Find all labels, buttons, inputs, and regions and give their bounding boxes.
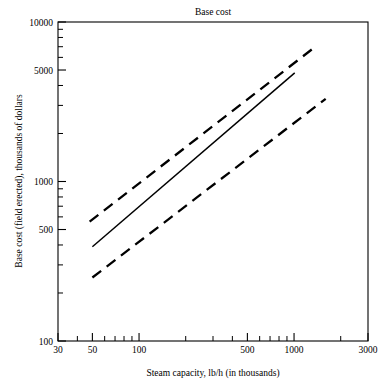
x-tick-label-3000: 3000	[359, 345, 378, 355]
x-tick-label-1000: 1000	[285, 345, 304, 355]
x-tick-label-50: 50	[88, 345, 98, 355]
x-axis-tick-labels: 305010050010003000	[53, 345, 378, 355]
y-tick-label-1000: 1000	[34, 177, 53, 187]
plot-frame	[58, 22, 368, 341]
y-tick-label-5000: 5000	[34, 66, 53, 76]
base-cost-log-log-chart: Base cost 305010050010003000 10050010005…	[0, 0, 392, 387]
y-axis-title: Base cost (field erected), thousands of …	[14, 94, 25, 268]
data-series-group	[90, 49, 326, 278]
x-tick-label-500: 500	[240, 345, 255, 355]
y-tick-label-500: 500	[39, 225, 54, 235]
chart-title: Base cost	[195, 7, 232, 17]
series-base-cost	[92, 73, 294, 247]
y-axis-ticks	[58, 22, 66, 341]
series-lower-bound	[92, 99, 325, 278]
x-tick-label-30: 30	[53, 345, 63, 355]
y-tick-label-10000: 10000	[29, 18, 53, 28]
chart-figure: Base cost 305010050010003000 10050010005…	[0, 0, 392, 387]
x-axis-ticks	[58, 333, 368, 341]
y-tick-label-100: 100	[39, 337, 54, 347]
y-axis-tick-labels: 1005001000500010000	[29, 18, 53, 347]
x-tick-label-100: 100	[132, 345, 147, 355]
x-axis-title: Steam capacity, lb/h (in thousands)	[146, 368, 279, 379]
